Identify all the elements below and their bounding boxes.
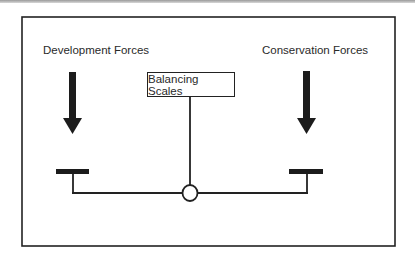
conservation-forces-label: Conservation Forces xyxy=(262,44,368,56)
conservation-arrow-icon xyxy=(297,71,316,134)
balancing-scales-label: Balancing Scales xyxy=(148,73,234,97)
development-forces-label: Development Forces xyxy=(43,44,149,56)
right-pan xyxy=(289,169,323,174)
balancing-scales-box: Balancing Scales xyxy=(147,72,235,97)
left-pan xyxy=(56,169,89,174)
pivot-icon xyxy=(183,185,198,201)
development-arrow-icon xyxy=(63,72,82,134)
balancing-scales-diagram xyxy=(0,0,415,263)
